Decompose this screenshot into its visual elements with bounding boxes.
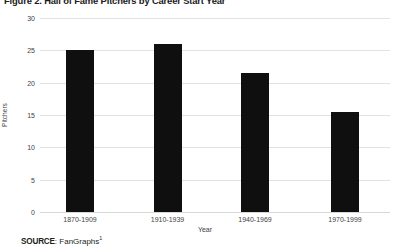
y-axis-tick-label: 10 <box>27 144 35 151</box>
x-axis-tick-label: 1970-1999 <box>328 216 361 223</box>
plot-area: 302520151050 <box>40 18 390 212</box>
gridline-30 <box>40 18 390 19</box>
figure-title: Figure 2. Hall of Fame Pitchers by Caree… <box>4 0 394 6</box>
source-note: SOURCE: FanGraphs1 <box>21 235 102 246</box>
source-label: SOURCE <box>21 237 55 246</box>
y-axis-tick-label: 30 <box>27 15 35 22</box>
gridline-0 <box>40 212 390 213</box>
bar-1870-1909 <box>66 50 94 212</box>
x-axis-title: Year <box>198 226 212 233</box>
y-axis-title: Pitchers <box>1 103 8 127</box>
x-axis-tick-labels: 1870-19091910-19391940-19691970-1999 <box>40 216 390 228</box>
y-axis-tick-label: 5 <box>31 176 35 183</box>
y-axis-tick-label: 15 <box>27 112 35 119</box>
bar-1940-1969 <box>241 73 269 212</box>
x-axis-tick-label: 1910-1939 <box>151 216 184 223</box>
source-footnote-marker: 1 <box>99 235 102 241</box>
figure-container: Figure 2. Hall of Fame Pitchers by Caree… <box>0 0 396 248</box>
x-axis-tick-label: 1940-1969 <box>238 216 271 223</box>
bar-1910-1939 <box>154 44 182 212</box>
y-axis-tick-label: 25 <box>27 47 35 54</box>
x-axis-tick-label: 1870-1909 <box>63 216 96 223</box>
source-value: FanGraphs <box>59 237 99 246</box>
y-axis-tick-label: 0 <box>31 209 35 216</box>
y-axis-tick-label: 20 <box>27 79 35 86</box>
bar-1970-1999 <box>331 112 359 212</box>
